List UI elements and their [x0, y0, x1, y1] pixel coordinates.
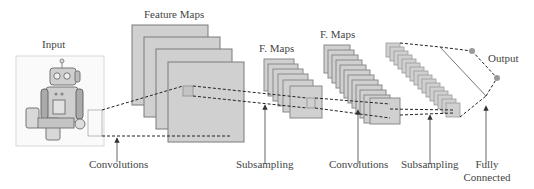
output-node-1	[469, 48, 475, 54]
stage-connected-label: Connected	[462, 171, 512, 184]
stage-fully-connected: Fully Connected	[462, 158, 512, 184]
output-label: Output	[488, 52, 519, 64]
f-maps-2-label: F. Maps	[320, 28, 355, 40]
stage-fully-label: Fully	[462, 158, 512, 171]
stage-subsampling-1: Subsampling	[236, 158, 293, 170]
stage-convolutions-1: Convolutions	[89, 158, 148, 170]
stage-convolutions-2: Convolutions	[329, 158, 388, 170]
feature-maps-label: Feature Maps	[144, 8, 204, 20]
feature-maps-stack	[132, 25, 244, 142]
output-node-2	[494, 75, 500, 81]
input-label: Input	[42, 38, 65, 50]
f-maps-1-label: F. Maps	[259, 42, 294, 54]
f-maps-1-stack	[264, 59, 322, 118]
stage-subsampling-2: Subsampling	[401, 158, 458, 170]
